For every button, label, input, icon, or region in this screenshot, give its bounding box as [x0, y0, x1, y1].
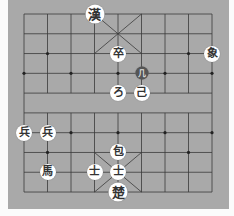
piece[interactable]: 漢: [85, 5, 104, 24]
piece[interactable]: 象: [204, 46, 220, 62]
piece[interactable]: ろ: [110, 85, 126, 101]
piece[interactable]: 包: [110, 144, 126, 160]
piece[interactable]: 兵: [16, 125, 32, 141]
piece[interactable]: 兵: [40, 125, 56, 141]
piece[interactable]: 士: [110, 164, 126, 180]
piece[interactable]: 卒: [110, 46, 126, 62]
piece[interactable]: 楚: [109, 183, 128, 202]
piece[interactable]: 馬: [40, 164, 56, 180]
piece[interactable]: 几: [135, 67, 148, 80]
piece[interactable]: 士: [87, 164, 103, 180]
piece[interactable]: 己: [134, 85, 150, 101]
